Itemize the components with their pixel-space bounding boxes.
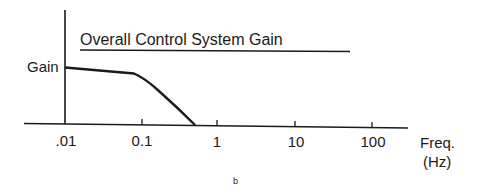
chart-title: Overall Control System Gain	[80, 32, 283, 47]
x-tick-label-0.01: .01	[56, 133, 77, 148]
x-tick-label-0.1: 0.1	[132, 133, 153, 148]
x-axis-label-line1: Freq.	[420, 135, 455, 150]
x-axis-label-line2: (Hz)	[423, 154, 451, 169]
x-tick-label-10: 10	[288, 134, 305, 149]
title-underline	[80, 50, 350, 52]
x-tick-label-100: 100	[360, 134, 385, 149]
y-axis-label: Gain	[27, 59, 59, 74]
gain-curve	[65, 68, 195, 126]
figure-caption: b	[233, 177, 238, 186]
chart-canvas	[0, 0, 479, 192]
x-axis	[24, 124, 408, 129]
x-tick-label-1: 1	[213, 134, 221, 149]
